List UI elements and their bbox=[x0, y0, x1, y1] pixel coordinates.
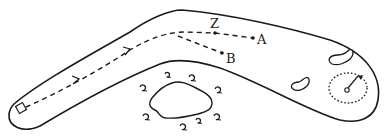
bunker-icon bbox=[291, 78, 309, 91]
label-z: Z bbox=[210, 16, 219, 31]
point-z bbox=[213, 31, 217, 35]
tee-box-icon bbox=[16, 103, 27, 114]
pond-icon bbox=[150, 82, 212, 118]
tree-icon bbox=[189, 75, 196, 81]
tree-icon bbox=[180, 124, 187, 130]
tree-icon bbox=[214, 114, 221, 120]
shot-path bbox=[26, 32, 253, 107]
flag-pole bbox=[348, 76, 358, 88]
bunker-icon bbox=[329, 50, 353, 65]
tree-icon bbox=[196, 118, 202, 123]
point-a bbox=[251, 36, 255, 40]
tree-icon bbox=[215, 87, 222, 93]
shot-path-branch-b bbox=[178, 36, 222, 53]
tree-icon bbox=[140, 85, 147, 91]
tree-icon bbox=[143, 114, 150, 120]
label-a: A bbox=[256, 32, 267, 47]
hole-icon bbox=[345, 88, 349, 92]
golf-hole-diagram: Z A B bbox=[0, 0, 384, 139]
point-b bbox=[220, 51, 224, 55]
tree-icon bbox=[165, 72, 171, 77]
label-b: B bbox=[226, 51, 236, 66]
